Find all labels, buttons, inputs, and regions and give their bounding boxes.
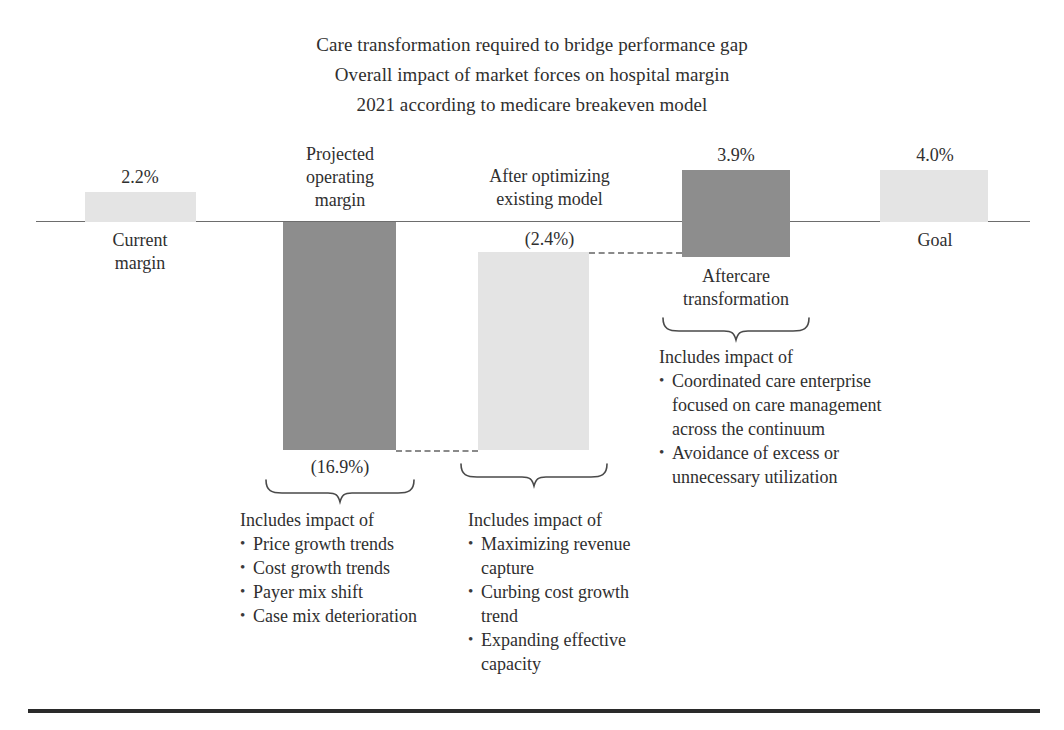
projected-operating-margin-category-label: Projected operating margin (250, 143, 430, 212)
aftercare-note-list: Coordinated care enterprise focused on c… (659, 369, 904, 489)
after-optimizing-value-label: (2.4%) (452, 228, 647, 250)
optimizing-note-list: Maximizing revenue capture Curbing cost … (468, 532, 653, 676)
chart-subtitle-secondary: 2021 according to medicare breakeven mod… (0, 90, 1064, 120)
bar-projected-operating-margin (283, 222, 396, 450)
aftercare-category-line-1: Aftercare (646, 265, 826, 288)
connector-projected-to-optimizing (396, 450, 478, 452)
projected-category-line-1: Projected (250, 143, 430, 166)
optimizing-note-bullet-3: Expanding effective capacity (468, 628, 653, 676)
optimizing-category-line-1: After optimizing (452, 165, 647, 188)
projected-category-line-2: operating (250, 166, 430, 189)
bar-aftercare-transformation (682, 170, 790, 257)
after-optimizing-brace (459, 462, 609, 488)
projected-note-bullet-4: Case mix deterioration (240, 604, 455, 628)
current-margin-category-label: Current margin (45, 229, 235, 275)
aftercare-category-line-2: transformation (646, 288, 826, 311)
optimizing-note-bullet-1: Maximizing revenue capture (468, 532, 653, 580)
projected-note-bullet-2: Cost growth trends (240, 556, 455, 580)
aftercare-transformation-brace (661, 316, 811, 342)
aftercare-note-bullet-1: Coordinated care enterprise focused on c… (659, 369, 904, 441)
connector-optimizing-to-aftercare (589, 252, 682, 254)
optimizing-category-line-2: existing model (452, 188, 647, 211)
current-margin-category-line-1: Current (45, 229, 235, 252)
projected-note-bullet-3: Payer mix shift (240, 580, 455, 604)
projected-operating-margin-brace (264, 478, 416, 504)
after-optimizing-note: Includes impact of Maximizing revenue ca… (468, 508, 653, 676)
chart-subtitle: Overall impact of market forces on hospi… (0, 60, 1064, 90)
current-margin-value-label: 2.2% (45, 166, 235, 188)
projected-category-line-3: margin (250, 189, 430, 212)
aftercare-note-bullet-2: Avoidance of excess or unnecessary utili… (659, 441, 904, 489)
projected-note-heading: Includes impact of (240, 508, 455, 532)
bar-after-optimizing-existing-model (478, 252, 589, 450)
aftercare-transformation-value-label: 3.9% (646, 144, 826, 166)
projected-note-list: Price growth trends Cost growth trends P… (240, 532, 455, 628)
aftercare-note-heading: Includes impact of (659, 345, 904, 369)
chart-title: Care transformation required to bridge p… (0, 30, 1064, 60)
optimizing-note-bullet-2: Curbing cost growth trend (468, 580, 653, 628)
goal-category-label: Goal (845, 229, 1025, 252)
projected-operating-margin-value-label: (16.9%) (249, 456, 431, 478)
bar-goal (880, 170, 988, 222)
optimizing-note-heading: Includes impact of (468, 508, 653, 532)
footer-divider (28, 709, 1040, 713)
aftercare-transformation-note: Includes impact of Coordinated care ente… (659, 345, 904, 489)
aftercare-transformation-category-label: Aftercare transformation (646, 265, 826, 311)
waterfall-chart: Care transformation required to bridge p… (0, 0, 1064, 730)
projected-note-bullet-1: Price growth trends (240, 532, 455, 556)
current-margin-category-line-2: margin (45, 252, 235, 275)
after-optimizing-category-label: After optimizing existing model (452, 165, 647, 211)
chart-title-block: Care transformation required to bridge p… (0, 30, 1064, 120)
goal-value-label: 4.0% (845, 144, 1025, 166)
bar-current-margin (85, 192, 196, 222)
projected-operating-margin-note: Includes impact of Price growth trends C… (240, 508, 455, 628)
